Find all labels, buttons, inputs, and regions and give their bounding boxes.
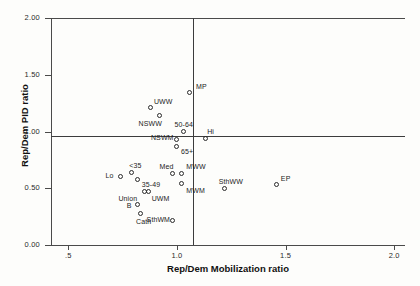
x-axis-line bbox=[51, 245, 405, 246]
x-tick-mark bbox=[286, 245, 287, 250]
x-axis-title: Rep/Dem Mobilization ratio bbox=[51, 263, 405, 274]
reference-line-horizontal bbox=[51, 136, 405, 137]
data-point-marker bbox=[222, 186, 227, 191]
data-point-label: MWM bbox=[186, 187, 205, 194]
data-point-label: UWM bbox=[152, 195, 170, 202]
x-tick-label: .5 bbox=[48, 251, 88, 260]
y-tick-label: 0.00 bbox=[0, 240, 40, 249]
data-point-marker bbox=[138, 211, 143, 216]
data-point-marker bbox=[203, 136, 208, 141]
data-point-label: 35-49 bbox=[142, 181, 160, 188]
data-point-label: <35 bbox=[129, 162, 141, 169]
y-tick-label: 2.00 bbox=[0, 13, 40, 22]
data-point-label: Hi bbox=[207, 128, 214, 135]
data-point-label: NSWW bbox=[139, 120, 162, 127]
y-axis-title: Rep/Dem PID ratio bbox=[19, 46, 30, 206]
y-tick-mark bbox=[45, 188, 51, 189]
x-tick-label: 1.5 bbox=[266, 251, 306, 260]
data-point-label: 65+ bbox=[181, 148, 193, 155]
y-tick-mark bbox=[45, 18, 51, 19]
data-point-marker bbox=[179, 181, 184, 186]
data-point-label: SthWW bbox=[219, 178, 243, 185]
reference-line-vertical bbox=[193, 18, 194, 245]
data-point-label: Lo bbox=[105, 172, 113, 179]
scatter-plot-figure: 0.000.501.001.502.00 .51.01.52.0 MPUWWNS… bbox=[0, 0, 420, 286]
data-point-label: NSWM bbox=[151, 134, 174, 141]
x-tick-label: 1.0 bbox=[157, 251, 197, 260]
x-tick-mark bbox=[68, 245, 69, 250]
data-point-marker bbox=[170, 218, 175, 223]
data-point-label: Union bbox=[118, 195, 137, 202]
y-tick-mark bbox=[45, 75, 51, 76]
data-point-label: MWW bbox=[186, 163, 205, 170]
data-point-label: B bbox=[127, 202, 132, 209]
x-tick-mark bbox=[177, 245, 178, 250]
data-point-label: EP bbox=[281, 175, 291, 182]
x-tick-mark bbox=[394, 245, 395, 250]
data-point-marker bbox=[129, 170, 134, 175]
plot-area bbox=[51, 18, 405, 245]
data-point-marker bbox=[181, 129, 186, 134]
data-point-label: Med bbox=[160, 163, 174, 170]
y-tick-mark bbox=[45, 132, 51, 133]
data-point-label: MP bbox=[196, 83, 207, 90]
x-tick-label: 2.0 bbox=[374, 251, 414, 260]
data-point-label: UWW bbox=[154, 98, 173, 105]
data-point-label: 50-64 bbox=[174, 121, 192, 128]
data-point-marker bbox=[179, 171, 184, 176]
data-point-label: SthWM bbox=[147, 216, 170, 223]
y-tick-mark bbox=[45, 245, 51, 246]
